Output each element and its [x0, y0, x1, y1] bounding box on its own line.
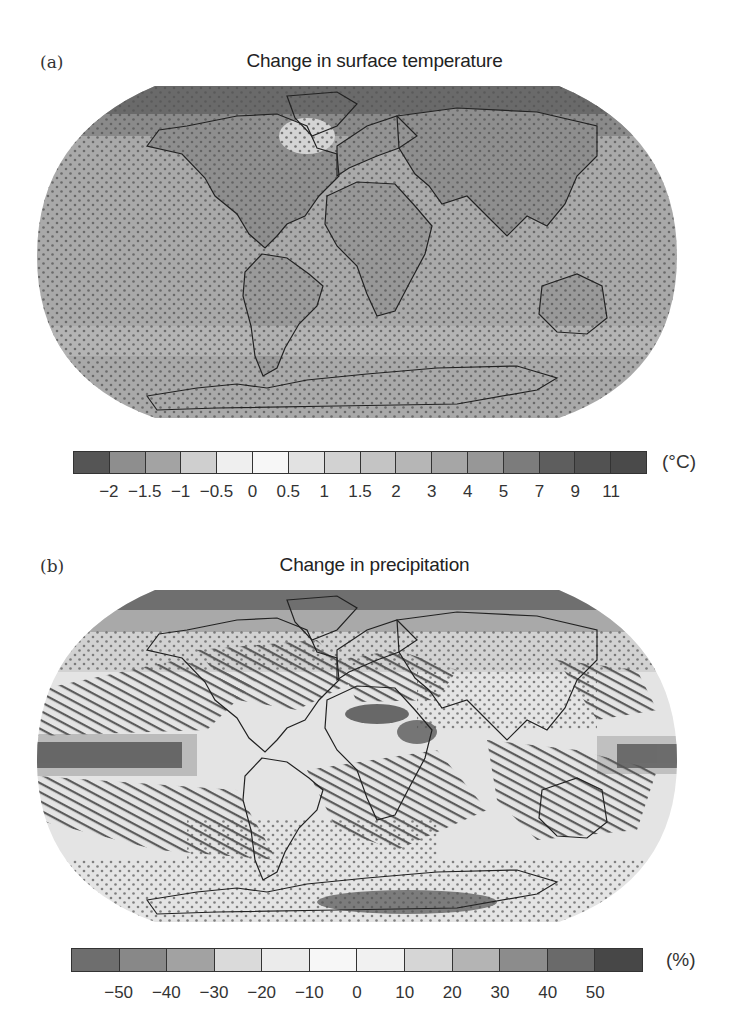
colorbar-tick-label: −1	[171, 482, 190, 502]
colorbar-tick-label: 10	[395, 983, 414, 1003]
colorbar-tick-label: 0	[352, 983, 361, 1003]
colorbar-cell	[217, 452, 253, 473]
colorbar-cell	[74, 452, 110, 473]
colorbar-cell	[500, 949, 548, 971]
colorbar-tick-label: 0.5	[276, 482, 300, 502]
temperature-unit-label: (°C)	[662, 451, 696, 473]
colorbar-cell	[289, 452, 325, 473]
colorbar-cell	[181, 452, 217, 473]
colorbar-tick-label: −0.5	[200, 482, 234, 502]
colorbar-tick-label: 5	[499, 482, 508, 502]
colorbar-cell	[595, 949, 642, 971]
colorbar-cell	[215, 949, 263, 971]
colorbar-tick-label: −50	[104, 983, 133, 1003]
temperature-change-map	[37, 86, 677, 418]
colorbar-tick-label: 1.5	[348, 482, 372, 502]
colorbar-cell	[325, 452, 361, 473]
colorbar-cell	[262, 949, 310, 971]
colorbar-cell	[611, 452, 646, 473]
colorbar-cell	[146, 452, 182, 473]
panel-b-title: Change in precipitation	[0, 554, 749, 576]
colorbar-cell	[120, 949, 168, 971]
colorbar-cell	[253, 452, 289, 473]
colorbar-tick-label: 0	[248, 482, 257, 502]
colorbar-cell	[310, 949, 358, 971]
colorbar-tick-label: 30	[491, 983, 510, 1003]
colorbar-tick-label: 20	[443, 983, 462, 1003]
colorbar-tick-label: 2	[391, 482, 400, 502]
colorbar-cell	[548, 949, 596, 971]
colorbar-cell	[396, 452, 432, 473]
precipitation-change-map	[37, 590, 677, 922]
colorbar-cell	[167, 949, 215, 971]
colorbar-tick-label: 3	[427, 482, 436, 502]
colorbar-cell	[361, 452, 397, 473]
panel-a-title: Change in surface temperature	[0, 50, 749, 72]
colorbar-cell	[540, 452, 576, 473]
colorbar-cell	[357, 949, 405, 971]
colorbar-tick-label: 4	[463, 482, 472, 502]
colorbar-tick-label: 40	[538, 983, 557, 1003]
colorbar-cell	[504, 452, 540, 473]
colorbar-tick-label: 9	[571, 482, 580, 502]
colorbar-tick-label: −30	[200, 983, 229, 1003]
colorbar-cell	[110, 452, 146, 473]
colorbar-cell	[468, 452, 504, 473]
colorbar-tick-label: −10	[295, 983, 324, 1003]
colorbar-cell	[432, 452, 468, 473]
colorbar-tick-label: 50	[586, 983, 605, 1003]
colorbar-tick-label: −20	[247, 983, 276, 1003]
colorbar-tick-label: 11	[602, 482, 620, 502]
colorbar-tick-label: 7	[535, 482, 544, 502]
colorbar-cell	[405, 949, 453, 971]
colorbar-cell	[575, 452, 611, 473]
temperature-colorbar	[73, 451, 647, 474]
colorbar-tick-label: −2	[99, 482, 118, 502]
precipitation-unit-label: (%)	[666, 949, 696, 971]
colorbar-cell	[453, 949, 501, 971]
colorbar-tick-label: −1.5	[128, 482, 162, 502]
precipitation-colorbar	[71, 948, 643, 972]
colorbar-tick-label: −40	[152, 983, 181, 1003]
colorbar-cell	[72, 949, 120, 971]
colorbar-tick-label: 1	[319, 482, 328, 502]
